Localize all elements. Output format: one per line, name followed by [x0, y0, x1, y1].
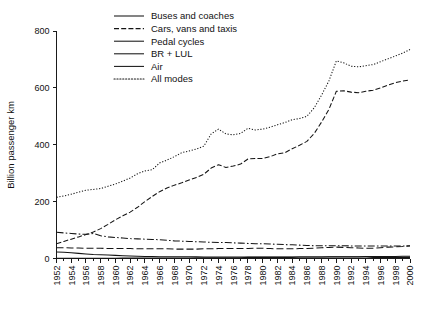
legend-label-br-lul: BR + LUL — [151, 48, 192, 59]
y-tick-label: 600 — [34, 83, 49, 93]
y-axis-title-text: Billion passenger km — [5, 101, 16, 189]
chart-container: Billion passenger km 0200400600800 19521… — [0, 0, 434, 309]
x-tick-label: 1968 — [170, 266, 180, 286]
x-tick-label: 1974 — [214, 266, 224, 286]
y-tick-label: 800 — [34, 26, 49, 36]
x-tick-label: 1962 — [125, 266, 135, 286]
y-axis-title: Billion passenger km — [5, 101, 16, 189]
legend-label-cars-vans-and-taxis: Cars, vans and taxis — [151, 23, 237, 34]
x-tick-label: 1994 — [361, 266, 371, 286]
line-chart: Billion passenger km 0200400600800 19521… — [0, 0, 434, 309]
x-tick-label: 1966 — [155, 266, 165, 286]
x-tick-label: 1960 — [111, 266, 121, 286]
x-tick-label: 1958 — [96, 266, 106, 286]
x-tick-label: 1976 — [229, 266, 239, 286]
legend-label-all-modes: All modes — [151, 73, 193, 84]
legend-label-pedal-cycles: Pedal cycles — [151, 36, 205, 47]
y-tick-label: 0 — [44, 254, 49, 264]
x-tick-label: 1982 — [273, 266, 283, 286]
x-tick-label: 1996 — [376, 266, 386, 286]
x-tick-label: 1964 — [140, 266, 150, 286]
x-tick-label: 2000 — [405, 266, 415, 286]
x-tick-label: 1992 — [346, 266, 356, 286]
x-tick-label: 1954 — [67, 266, 77, 286]
x-tick-label: 1990 — [332, 266, 342, 286]
y-tick-label: 200 — [34, 197, 49, 207]
x-tick-label: 1970 — [184, 266, 194, 286]
x-tick-label: 1986 — [302, 266, 312, 286]
x-tick-label: 1978 — [243, 266, 253, 286]
legend-label-buses-and-coaches: Buses and coaches — [151, 10, 234, 21]
x-tick-label: 1984 — [287, 266, 297, 286]
x-tick-label: 1972 — [199, 266, 209, 286]
x-tick-label: 1988 — [317, 266, 327, 286]
legend-label-air: Air — [151, 61, 163, 72]
y-tick-label: 400 — [34, 140, 49, 150]
chart-background — [0, 0, 434, 309]
x-tick-label: 1998 — [391, 266, 401, 286]
x-tick-label: 1952 — [52, 266, 62, 286]
x-tick-label: 1980 — [258, 266, 268, 286]
x-tick-label: 1956 — [81, 266, 91, 286]
